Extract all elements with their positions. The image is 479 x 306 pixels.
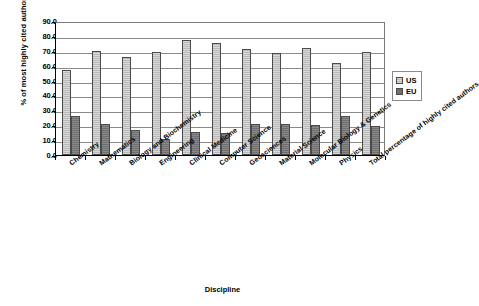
y-axis-tick-label: 40.0 — [15, 92, 57, 99]
bar-us[interactable] — [62, 70, 71, 155]
y-axis-tick-label: 20.0 — [15, 122, 57, 129]
chart-legend: US EU — [392, 71, 422, 101]
legend-item-us[interactable]: US — [396, 75, 416, 86]
y-axis-tick-label: 50.0 — [15, 78, 57, 85]
legend-label-eu: EU — [406, 88, 416, 96]
bar-group — [176, 23, 206, 155]
legend-swatch-us-icon — [396, 77, 403, 84]
y-axis-tick-label: 30.0 — [15, 107, 57, 114]
y-axis-tick-label: 0.0 — [15, 152, 57, 159]
legend-label-us: US — [406, 77, 416, 85]
bar-eu[interactable] — [371, 126, 380, 155]
bar-group — [86, 23, 116, 155]
y-axis-tick-label: 70.0 — [15, 48, 57, 55]
y-axis-tick-label: 90.0 — [15, 18, 57, 25]
legend-swatch-eu-icon — [396, 88, 403, 95]
bar-us[interactable] — [362, 52, 371, 155]
bar-group — [56, 23, 86, 155]
bar-eu[interactable] — [101, 124, 110, 155]
x-axis-title: Discipline — [0, 285, 445, 294]
bar-us[interactable] — [92, 51, 101, 155]
y-axis-tick-label: 10.0 — [15, 137, 57, 144]
bar-eu[interactable] — [71, 116, 80, 155]
legend-item-eu[interactable]: EU — [396, 86, 416, 97]
y-axis-tick-label: 80.0 — [15, 33, 57, 40]
bar-group — [356, 23, 386, 155]
x-axis-tick-mark — [55, 156, 56, 160]
y-axis-tick-label: 60.0 — [15, 63, 57, 70]
